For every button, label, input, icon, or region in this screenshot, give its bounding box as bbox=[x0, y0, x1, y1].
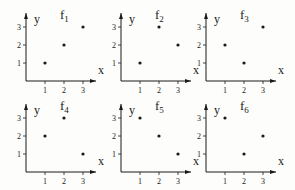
data-point bbox=[157, 134, 160, 137]
data-point bbox=[62, 43, 65, 46]
x-tick-label: 1 bbox=[223, 177, 227, 186]
y-arrow-icon bbox=[24, 13, 28, 19]
y-axis-label: y bbox=[34, 12, 40, 26]
x-arrow-icon bbox=[90, 170, 96, 174]
x-tick-label: 1 bbox=[138, 177, 142, 186]
y-tick-label: 2 bbox=[17, 41, 21, 50]
y-tick-label: 3 bbox=[112, 23, 116, 32]
x-axis-label: x bbox=[98, 63, 104, 77]
y-tick-label: 2 bbox=[197, 41, 201, 50]
y-axis-label: y bbox=[129, 12, 135, 26]
plot-panel-1: 123123xyf1 bbox=[17, 7, 104, 95]
data-point bbox=[223, 116, 226, 119]
y-tick-label: 2 bbox=[112, 132, 116, 141]
y-tick-label: 1 bbox=[17, 150, 21, 159]
x-axis-label: x bbox=[278, 154, 284, 168]
y-axis-label: y bbox=[34, 103, 40, 117]
panel-title: f2 bbox=[155, 7, 164, 24]
x-tick-label: 1 bbox=[223, 86, 227, 95]
data-point bbox=[43, 134, 46, 137]
data-point bbox=[62, 116, 65, 119]
x-tick-label: 2 bbox=[157, 177, 161, 186]
data-point bbox=[43, 61, 46, 64]
y-tick-label: 1 bbox=[112, 150, 116, 159]
y-arrow-icon bbox=[204, 104, 208, 110]
x-tick-label: 3 bbox=[81, 86, 85, 95]
y-arrow-icon bbox=[119, 13, 123, 19]
plot-panel-5: 123123xyf5 bbox=[112, 98, 199, 186]
x-arrow-icon bbox=[270, 79, 276, 83]
y-tick-label: 2 bbox=[197, 132, 201, 141]
data-point bbox=[176, 43, 179, 46]
data-point bbox=[242, 61, 245, 64]
data-point bbox=[138, 116, 141, 119]
data-point bbox=[176, 152, 179, 155]
y-tick-label: 1 bbox=[197, 59, 201, 68]
y-arrow-icon bbox=[119, 104, 123, 110]
y-tick-label: 1 bbox=[197, 150, 201, 159]
y-axis-label: y bbox=[129, 103, 135, 117]
x-arrow-icon bbox=[185, 170, 191, 174]
x-arrow-icon bbox=[90, 79, 96, 83]
data-point bbox=[261, 25, 264, 28]
x-arrow-icon bbox=[270, 170, 276, 174]
data-point bbox=[157, 25, 160, 28]
data-point bbox=[223, 43, 226, 46]
panel-title: f6 bbox=[240, 98, 249, 115]
x-axis-label: x bbox=[98, 154, 104, 168]
y-axis-label: y bbox=[214, 103, 220, 117]
panel-title: f1 bbox=[60, 7, 69, 24]
data-point bbox=[81, 25, 84, 28]
y-tick-label: 1 bbox=[17, 59, 21, 68]
x-tick-label: 3 bbox=[81, 177, 85, 186]
x-tick-label: 3 bbox=[176, 86, 180, 95]
x-tick-label: 1 bbox=[43, 86, 47, 95]
y-axis-label: y bbox=[214, 12, 220, 26]
data-point bbox=[138, 61, 141, 64]
x-axis-label: x bbox=[278, 63, 284, 77]
x-tick-label: 3 bbox=[261, 177, 265, 186]
data-point bbox=[261, 134, 264, 137]
plot-panel-2: 123123xyf2 bbox=[112, 7, 199, 95]
plot-panel-6: 123123xyf6 bbox=[197, 98, 284, 186]
x-tick-label: 3 bbox=[176, 177, 180, 186]
x-tick-label: 1 bbox=[138, 86, 142, 95]
y-tick-label: 1 bbox=[112, 59, 116, 68]
x-tick-label: 2 bbox=[242, 86, 246, 95]
x-arrow-icon bbox=[185, 79, 191, 83]
y-tick-label: 3 bbox=[197, 23, 201, 32]
plot-panel-3: 123123xyf3 bbox=[197, 7, 284, 95]
y-tick-label: 3 bbox=[17, 114, 21, 123]
x-tick-label: 2 bbox=[62, 177, 66, 186]
plot-panel-4: 123123xyf4 bbox=[17, 98, 104, 186]
y-tick-label: 2 bbox=[112, 41, 116, 50]
x-tick-label: 1 bbox=[43, 177, 47, 186]
x-tick-label: 3 bbox=[261, 86, 265, 95]
data-point bbox=[81, 152, 84, 155]
y-arrow-icon bbox=[204, 13, 208, 19]
panel-title: f3 bbox=[240, 7, 249, 24]
y-tick-label: 3 bbox=[17, 23, 21, 32]
y-tick-label: 3 bbox=[112, 114, 116, 123]
x-tick-label: 2 bbox=[242, 177, 246, 186]
y-arrow-icon bbox=[24, 104, 28, 110]
function-plots-grid: 123123xyf1123123xyf2123123xyf3123123xyf4… bbox=[0, 0, 295, 190]
x-tick-label: 2 bbox=[62, 86, 66, 95]
x-tick-label: 2 bbox=[157, 86, 161, 95]
y-tick-label: 3 bbox=[197, 114, 201, 123]
panel-title: f5 bbox=[155, 98, 164, 115]
y-tick-label: 2 bbox=[17, 132, 21, 141]
data-point bbox=[242, 152, 245, 155]
panel-title: f4 bbox=[60, 98, 69, 115]
